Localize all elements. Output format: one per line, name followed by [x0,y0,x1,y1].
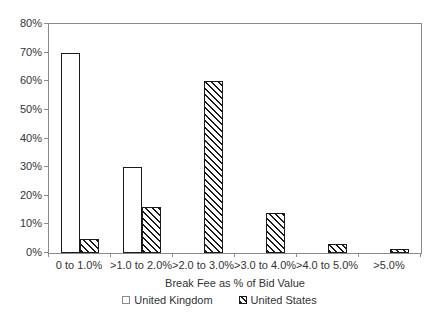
bar-united-states-5 [390,249,409,253]
x-axis-tick [110,253,111,257]
x-category-label: >5.0% [373,259,405,271]
legend-item-united-states: United States [239,294,317,306]
x-axis-tick [234,253,235,257]
y-axis-tick-label: 40% [2,132,42,144]
x-category-label: >2.0 to 3.0% [172,259,234,271]
y-axis-tick [44,166,48,167]
bar-united-kingdom-0 [61,53,80,253]
plot-area [48,23,422,254]
x-axis-tick [48,253,49,257]
y-axis-tick-label: 20% [2,189,42,201]
legend-label-united-kingdom: United Kingdom [134,294,212,306]
y-axis-tick-label: 70% [2,46,42,58]
y-axis-tick-label: 50% [2,103,42,115]
y-axis-tick [44,23,48,24]
bar-united-states-4 [328,244,347,253]
x-axis-tick [296,253,297,257]
bar-united-states-0 [80,239,99,253]
y-axis-tick [44,52,48,53]
legend-swatch-united-states [239,296,247,304]
legend: United KingdomUnited States [0,294,439,306]
bar-united-states-3 [266,213,285,253]
bar-united-kingdom-1 [123,167,142,253]
x-category-label: >3.0 to 4.0% [234,259,296,271]
bar-united-states-2 [204,81,223,253]
legend-label-united-states: United States [251,294,317,306]
x-category-label: 0 to 1.0% [56,259,102,271]
y-axis-tick [44,195,48,196]
y-axis-tick [44,80,48,81]
y-axis-tick-label: 10% [2,217,42,229]
x-axis-tick [358,253,359,257]
legend-item-united-kingdom: United Kingdom [122,294,212,306]
y-axis-tick-label: 80% [2,17,42,29]
x-category-label: >4.0 to 5.0% [296,259,358,271]
y-axis-tick [44,138,48,139]
x-axis-tick [172,253,173,257]
y-axis-tick-label: 30% [2,160,42,172]
bar-united-states-1 [142,207,161,253]
y-axis-tick-label: 0% [2,246,42,258]
y-axis-tick [44,223,48,224]
x-category-label: >1.0 to 2.0% [110,259,172,271]
legend-swatch-united-kingdom [122,296,130,304]
x-axis-title: Break Fee as % of Bid Value [165,277,305,289]
x-axis-tick [420,253,421,257]
break-fee-bar-chart: Break Fee as % of Bid Value United Kingd… [0,0,439,318]
y-axis-tick-label: 60% [2,74,42,86]
y-axis-tick [44,109,48,110]
